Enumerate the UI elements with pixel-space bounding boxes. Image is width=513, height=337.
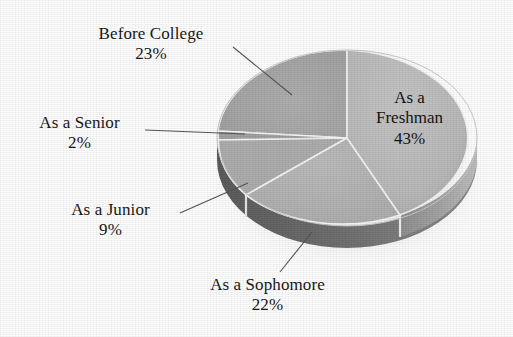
label-as-a-freshman: As a Freshman 43% [352,88,467,149]
label-as-a-junior-name: As a Junior [71,200,150,219]
pie-chart-figure: Before College 23% As a Senior 2% As a J… [0,0,513,337]
label-before-college-name: Before College [99,24,204,43]
label-before-college-percent: 23% [56,44,246,64]
label-as-a-junior: As a Junior 9% [43,200,178,240]
label-as-a-senior: As a Senior 2% [12,113,147,153]
label-as-a-freshman-name2: Freshman [376,108,443,127]
label-as-a-junior-percent: 9% [43,220,178,240]
label-as-a-sophomore: As a Sophomore 22% [175,275,360,315]
label-as-a-freshman-percent: 43% [394,129,425,148]
label-before-college: Before College 23% [56,24,246,64]
label-as-a-senior-percent: 2% [12,133,147,153]
label-as-a-sophomore-percent: 22% [175,295,360,315]
label-as-a-senior-name: As a Senior [39,113,119,132]
label-as-a-freshman-name: As a [394,88,425,107]
label-as-a-sophomore-name: As a Sophomore [210,275,325,294]
